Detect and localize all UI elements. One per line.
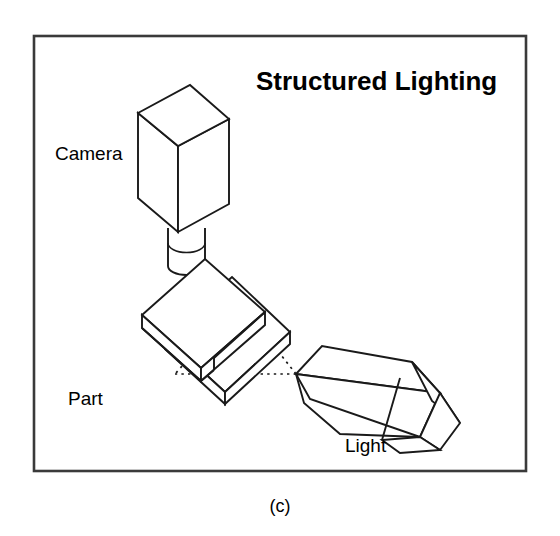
structured-lighting-figure: Structured Lighting Camera — [0, 0, 560, 536]
camera-label: Camera — [55, 143, 123, 164]
figure-caption: (c) — [270, 496, 291, 516]
figure-title: Structured Lighting — [256, 66, 497, 96]
light-label: Light — [345, 435, 387, 456]
figure-canvas: Structured Lighting Camera — [0, 0, 560, 536]
part-label: Part — [68, 388, 104, 409]
figure-frame — [34, 36, 526, 471]
